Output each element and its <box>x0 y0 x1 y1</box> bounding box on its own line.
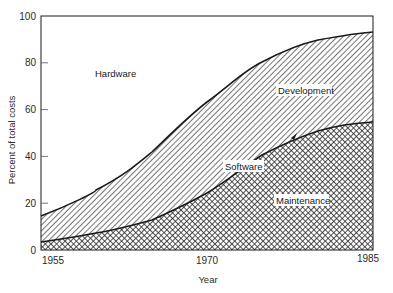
y-tick-80: 80 <box>25 57 37 68</box>
y-tick-60: 60 <box>25 104 37 115</box>
hardware-label: Hardware <box>95 68 136 79</box>
cost-trend-chart: 100 80 60 40 20 0 1955 1970 1985 Year Pe… <box>0 0 393 293</box>
y-tick-40: 40 <box>25 151 37 162</box>
y-axis <box>41 63 48 203</box>
y-tick-100: 100 <box>19 11 36 22</box>
x-tick-1955: 1955 <box>42 255 65 266</box>
y-tick-0: 0 <box>30 245 36 256</box>
maintenance-label: Maintenance <box>276 195 330 206</box>
x-tick-1970: 1970 <box>196 255 219 266</box>
y-tick-20: 20 <box>25 198 37 209</box>
y-axis-title: Percent of total costs <box>6 95 17 184</box>
development-label: Development <box>278 85 334 96</box>
x-axis-title: Year <box>198 274 217 285</box>
software-label: Software <box>225 161 263 172</box>
x-tick-1985: 1985 <box>357 253 380 264</box>
